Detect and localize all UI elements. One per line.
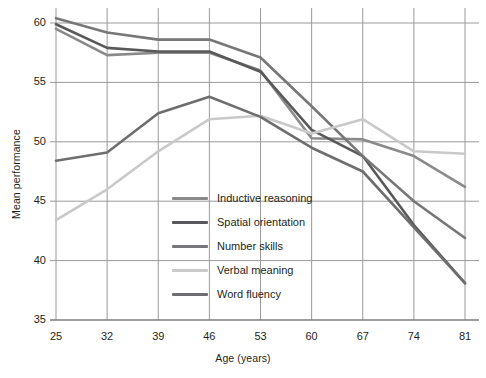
x-tick-label: 25	[39, 330, 73, 342]
legend-item-label: Spatial orientation	[217, 216, 305, 228]
legend-item-label: Inductive reasoning	[217, 192, 312, 204]
legend-item: Word fluency	[172, 282, 312, 306]
legend-item-label: Word fluency	[217, 288, 281, 300]
legend-color-swatch	[172, 245, 208, 248]
y-axis-title: Mean performance	[10, 114, 22, 234]
legend-color-swatch	[172, 293, 208, 296]
legend-item-label: Verbal meaning	[217, 264, 293, 276]
y-tick-label: 35	[18, 313, 46, 325]
chart-legend: Inductive reasoningSpatial orientationNu…	[172, 186, 312, 306]
x-tick-label: 53	[244, 330, 278, 342]
y-tick-label: 50	[18, 135, 46, 147]
y-tick-label: 45	[18, 194, 46, 206]
x-tick-label: 39	[141, 330, 175, 342]
x-tick-label: 60	[295, 330, 329, 342]
line-chart: 354045505560 253239465360677481 Mean per…	[0, 0, 486, 378]
legend-item: Number skills	[172, 234, 312, 258]
x-tick-label: 67	[346, 330, 380, 342]
legend-color-swatch	[172, 221, 208, 224]
legend-item: Verbal meaning	[172, 258, 312, 282]
x-tick-label: 46	[192, 330, 226, 342]
y-tick-label: 60	[18, 16, 46, 28]
x-tick-label: 74	[397, 330, 431, 342]
legend-item: Spatial orientation	[172, 210, 312, 234]
y-tick-label: 40	[18, 254, 46, 266]
legend-item: Inductive reasoning	[172, 186, 312, 210]
legend-color-swatch	[172, 269, 208, 272]
y-tick-label: 55	[18, 75, 46, 87]
x-tick-label: 81	[448, 330, 482, 342]
x-axis-title: Age (years)	[0, 352, 486, 364]
x-tick-label: 32	[90, 330, 124, 342]
legend-item-label: Number skills	[217, 240, 283, 252]
legend-color-swatch	[172, 197, 208, 200]
